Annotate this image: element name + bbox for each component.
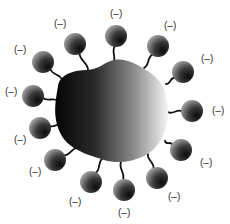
tether-chain [79, 53, 88, 70]
charged-sphere [64, 33, 86, 55]
charged-sphere [80, 171, 102, 193]
charged-sphere [105, 25, 127, 47]
charged-sphere [172, 61, 194, 83]
negative-charge-label: (–) [200, 157, 212, 168]
charged-sphere [181, 100, 203, 122]
negative-charge-label: (–) [69, 196, 81, 207]
negative-charge-label: (–) [29, 166, 41, 177]
tether-chain [120, 162, 123, 180]
tether-chain [144, 54, 153, 68]
particle-core [55, 60, 168, 162]
tether-chain [50, 69, 62, 80]
charged-sphere [170, 139, 192, 161]
charged-sphere [32, 51, 54, 73]
negative-charge-label: (–) [5, 86, 17, 97]
tether-chain [95, 158, 103, 173]
charged-sphere [146, 167, 168, 189]
charged-sphere [44, 149, 66, 171]
negative-charge-label: (–) [14, 44, 26, 55]
negative-charge-label: (–) [118, 207, 130, 218]
tether-chain [148, 154, 154, 169]
negative-charge-label: (–) [54, 18, 66, 29]
charged-sphere [29, 117, 51, 139]
tether-chain [166, 78, 175, 84]
charged-sphere [113, 179, 135, 201]
negative-charge-label: (–) [164, 20, 176, 31]
negative-charge-label: (–) [168, 191, 180, 202]
tether-chain [168, 111, 182, 113]
charged-particle-diagram: (–)(–)(–)(–)(–)(–)(–)(–)(–)(–)(–)(–)(–) [0, 0, 230, 224]
negative-charge-label: (–) [201, 53, 213, 64]
negative-charge-label: (–) [212, 105, 224, 116]
charged-sphere [147, 35, 169, 57]
negative-charge-label: (–) [110, 8, 122, 19]
negative-charge-label: (–) [14, 134, 26, 145]
tether-chain [165, 141, 172, 145]
tether-chain [43, 98, 58, 101]
charged-sphere [22, 85, 44, 107]
